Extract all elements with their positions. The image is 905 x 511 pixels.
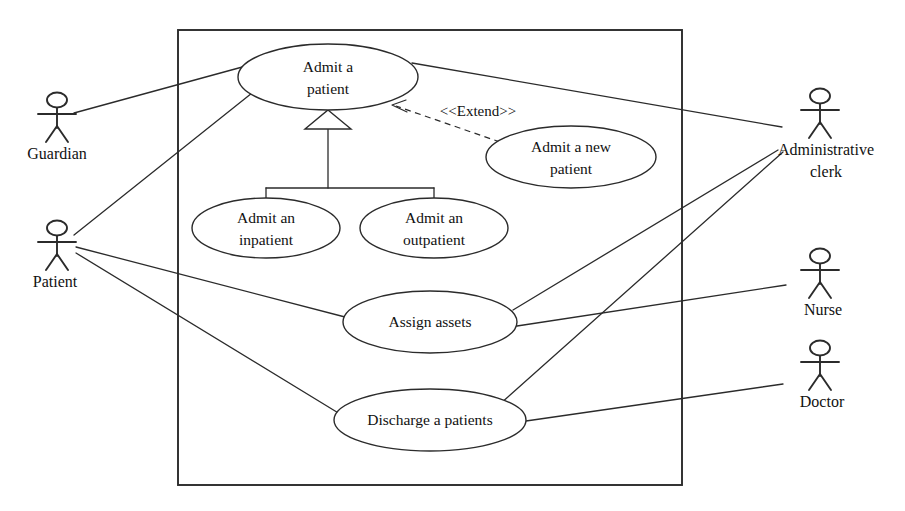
actor-label: Nurse	[804, 301, 842, 318]
association-patient-assign-assets	[76, 247, 345, 317]
actor-head-icon	[810, 249, 830, 264]
extend-stereotype-label: <<Extend>>	[440, 103, 516, 119]
actor-label: Doctor	[800, 393, 845, 410]
use-case-assign-assets[interactable]: Assign assets	[343, 291, 517, 353]
actor-leg-right-icon	[57, 126, 68, 142]
diagram-canvas: <<Extend>> Admit a patient Admit a new p…	[0, 0, 905, 511]
use-case-ellipse[interactable]	[238, 44, 418, 110]
actor-leg-left-icon	[809, 374, 820, 390]
actor-leg-left-icon	[46, 254, 57, 270]
actor-label: Guardian	[27, 145, 87, 162]
use-case-ellipse[interactable]	[360, 198, 508, 258]
actor-leg-left-icon	[809, 122, 820, 138]
actor-leg-left-icon	[809, 282, 820, 298]
use-case-label-line-1: Admit a new	[531, 138, 612, 155]
association-nurse-assign-assets	[517, 285, 786, 326]
association-administrative-clerk-discharge-a-patients	[500, 152, 783, 404]
actor-patient[interactable]: Patient	[33, 221, 78, 290]
actor-label-line-2: clerk	[810, 163, 842, 180]
use-case-admit-a-patient[interactable]: Admit a patient	[238, 44, 418, 110]
use-case-label-line-2: patient	[307, 80, 350, 97]
extend-open-arrowhead	[392, 100, 407, 112]
use-case-label-line-1: Admit an	[237, 209, 295, 226]
generalization-tree	[266, 110, 434, 199]
actor-leg-right-icon	[820, 122, 831, 138]
association-doctor-discharge-a-patients	[526, 384, 783, 421]
association-guardian-admit-a-patient	[74, 66, 246, 113]
actor-leg-left-icon	[46, 126, 57, 142]
use-case-admit-an-outpatient[interactable]: Admit an outpatient	[360, 198, 508, 258]
actor-label-line-1: Administrative	[778, 141, 874, 158]
use-case-label-line-2: outpatient	[403, 231, 466, 248]
actor-head-icon	[47, 221, 67, 236]
use-case-label-line-1: Admit a	[303, 58, 353, 75]
actor-head-icon	[810, 341, 830, 356]
uml-use-case-diagram: <<Extend>> Admit a patient Admit a new p…	[0, 0, 905, 511]
use-case-label-line-1: Discharge a patients	[367, 411, 492, 428]
use-case-ellipse[interactable]	[486, 126, 656, 188]
actor-leg-right-icon	[820, 374, 831, 390]
generalization-triangle-arrowhead	[305, 110, 351, 129]
actor-leg-right-icon	[820, 282, 831, 298]
actor-guardian[interactable]: Guardian	[27, 93, 87, 162]
actor-administrative-clerk[interactable]: Administrative clerk	[778, 89, 874, 180]
actor-head-icon	[810, 89, 830, 104]
actor-leg-right-icon	[57, 254, 68, 270]
actor-label: Patient	[33, 273, 78, 290]
use-case-label-line-1: Assign assets	[388, 313, 471, 330]
actor-head-icon	[47, 93, 67, 108]
use-case-label-line-1: Admit an	[405, 209, 463, 226]
use-case-label-line-2: inpatient	[239, 231, 294, 248]
use-case-admit-an-inpatient[interactable]: Admit an inpatient	[192, 198, 340, 258]
use-case-admit-a-new-patient[interactable]: Admit a new patient	[486, 126, 656, 188]
use-case-discharge-a-patients[interactable]: Discharge a patients	[334, 389, 526, 451]
actor-nurse[interactable]: Nurse	[801, 249, 842, 318]
extend-dependency: <<Extend>>	[392, 100, 516, 142]
use-case-ellipse[interactable]	[192, 198, 340, 258]
association-patient-discharge-a-patients	[76, 253, 340, 414]
actor-doctor[interactable]: Doctor	[800, 341, 845, 410]
use-case-label-line-2: patient	[550, 160, 593, 177]
